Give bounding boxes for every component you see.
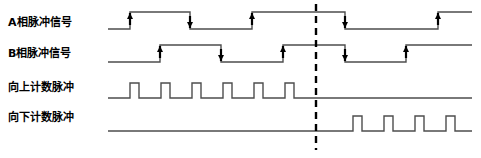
waveform-path-phase-b bbox=[108, 45, 472, 62]
waveform-canvas bbox=[0, 0, 481, 158]
edge-arrow-down-phase-b-3 bbox=[342, 55, 348, 61]
waveform-phase-b bbox=[108, 45, 472, 62]
waveform-count-up bbox=[108, 83, 472, 98]
edge-arrow-down-phase-b-1 bbox=[218, 55, 224, 61]
waveform-path-count-up bbox=[108, 83, 472, 98]
waveform-count-down bbox=[108, 116, 472, 131]
edge-arrow-down-phase-a-3 bbox=[342, 22, 348, 28]
edge-arrow-up-phase-a-4 bbox=[435, 13, 441, 19]
waveform-path-phase-a bbox=[108, 12, 472, 29]
edge-arrow-up-phase-a-2 bbox=[249, 13, 255, 19]
edge-arrow-up-phase-b-0 bbox=[157, 46, 163, 52]
timing-diagram: A相脉冲信号 B相脉冲信号 向上计数脉冲 向下计数脉冲 bbox=[0, 0, 481, 158]
edge-arrow-up-phase-a-0 bbox=[127, 13, 133, 19]
waveform-phase-a bbox=[108, 12, 472, 29]
edge-arrow-up-phase-b-4 bbox=[403, 46, 409, 52]
edge-arrow-down-phase-a-1 bbox=[187, 22, 193, 28]
edge-arrow-up-phase-b-2 bbox=[280, 46, 286, 52]
waveform-path-count-down bbox=[108, 116, 472, 131]
